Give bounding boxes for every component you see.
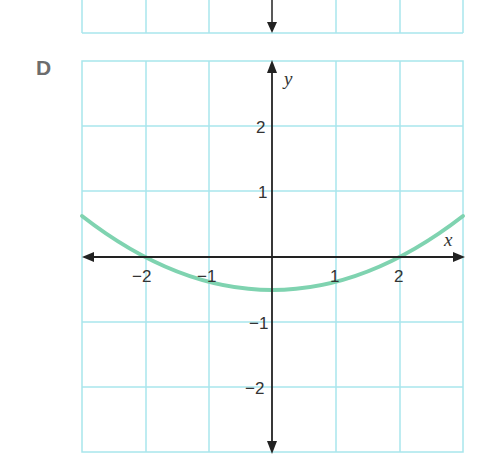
y-tick-2: 2 (256, 118, 265, 137)
y-tick-1: 1 (258, 183, 267, 202)
x-tick-2: 2 (394, 267, 403, 286)
x-tick-neg2: −2 (132, 267, 151, 286)
x-tick-neg1: −1 (197, 267, 216, 286)
y-tick-neg1: −1 (249, 314, 268, 333)
previous-graph-y-axis (267, 0, 277, 33)
y-axis-label: y (282, 68, 293, 89)
graph: y x −2 −1 1 2 2 1 −1 −2 (0, 0, 486, 469)
y-axis-up-arrow-icon (267, 60, 277, 73)
x-axis-label: x (443, 229, 453, 250)
x-tick-1: 1 (330, 267, 339, 286)
x-axis-left-arrow-icon (82, 252, 94, 262)
y-tick-neg2: −2 (245, 379, 264, 398)
